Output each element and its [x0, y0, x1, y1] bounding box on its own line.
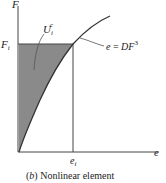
deformation-level-label: ei — [70, 155, 76, 168]
complementary-energy-label: Uic — [43, 21, 54, 37]
force-level-label: Fi — [0, 38, 10, 52]
y-axis-label: F — [11, 0, 19, 10]
x-axis-label: e — [154, 146, 159, 158]
equation-leader — [80, 38, 104, 46]
nonlinear-element-diagram: F e Fi ei Uic e = DF3 (b) Nonlinear elem… — [0, 0, 166, 183]
curve-equation-label: e = DF3 — [106, 39, 138, 52]
complementary-energy-region — [19, 44, 73, 152]
figure-caption: (b) Nonlinear element — [26, 170, 115, 182]
